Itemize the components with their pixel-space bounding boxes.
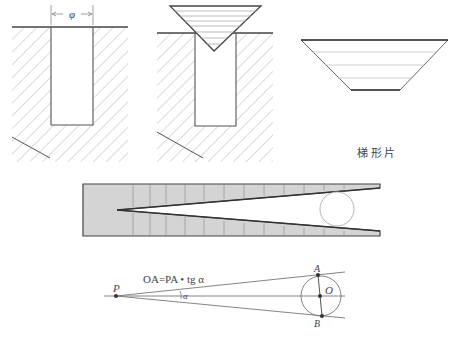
hatched-material	[157, 33, 273, 162]
point-p	[114, 294, 118, 298]
triangle-slot-figure	[157, 6, 273, 162]
measured-ball	[320, 192, 354, 226]
label-o: O	[325, 284, 333, 296]
wedge-gauge-figure	[83, 184, 380, 236]
point-o	[318, 294, 322, 298]
angle-arc-icon	[180, 291, 181, 299]
dimension-label: φ	[69, 8, 75, 20]
formula-text: OA=PA • tg α	[143, 273, 204, 285]
tangent-line-lower	[116, 296, 345, 318]
trapezoid-caption: 梯 形 片	[357, 147, 396, 159]
diagram-canvas: φ 梯 形 片	[0, 0, 459, 338]
slot-figure: φ	[12, 5, 128, 162]
hatched-material	[12, 27, 128, 162]
trapezoid-figure: 梯 形 片	[301, 40, 448, 159]
angle-label: α	[183, 291, 188, 301]
geometry-figure: OA=PA • tg α α P A O B	[104, 263, 345, 329]
slot-outline	[51, 27, 93, 125]
label-p: P	[112, 282, 120, 294]
label-b: B	[314, 318, 320, 329]
label-a: A	[313, 263, 321, 274]
point-b	[320, 314, 324, 318]
